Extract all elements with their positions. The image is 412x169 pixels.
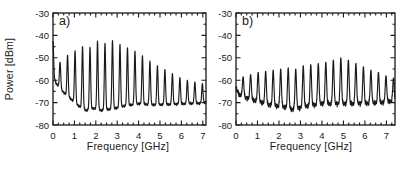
panel-a-x-tick-label: 7	[200, 130, 205, 141]
panel-b-y-tick-label: -60	[218, 75, 232, 86]
panel-a-x-tick-label: 0	[50, 130, 55, 141]
panel-b-y-tick-label: -40	[218, 30, 232, 41]
panel-b-y-tick-label: -50	[218, 52, 232, 63]
y-axis-title: Power [dBm]	[3, 19, 15, 119]
panel-a-y-tick-label: -40	[35, 30, 49, 41]
panel-a-y-tick-label: -60	[35, 75, 49, 86]
panel-b-y-tick-label: -70	[218, 97, 232, 108]
panel-a-curve	[53, 40, 206, 111]
spectrum-figure: 01234567-30-40-50-60-70-8001234567-30-40…	[0, 0, 412, 169]
panel-b-label: b)	[242, 15, 253, 28]
panel-a-x-axis-title: Frequency [GHz]	[68, 140, 188, 152]
panel-a-y-tick-label: -30	[35, 8, 49, 19]
panel-b-axes-box	[236, 13, 395, 125]
panel-b-x-axis-title: Frequency [GHz]	[251, 140, 371, 152]
panel-a-y-tick-label: -70	[35, 97, 49, 108]
panel-b-x-tick-label: 0	[233, 130, 238, 141]
panel-b-x-tick-label: 7	[384, 130, 389, 141]
panel-b-y-tick-label: -30	[218, 8, 232, 19]
panel-a-label: a)	[59, 15, 70, 28]
panel-b-tick-marks	[236, 13, 395, 125]
panel-b-curve	[236, 58, 395, 112]
panel-a-y-tick-label: -50	[35, 52, 49, 63]
panel-a-y-tick-label: -80	[35, 120, 49, 131]
panel-b-y-tick-label: -80	[218, 120, 232, 131]
